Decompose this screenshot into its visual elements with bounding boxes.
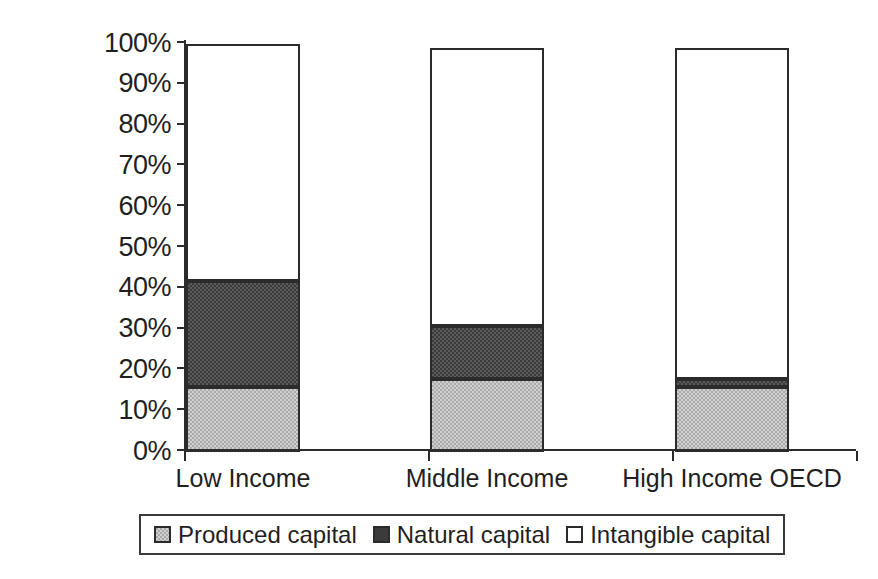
bar-middle-income[interactable] [430,42,544,450]
x-axis-tick-mark [856,451,858,461]
y-axis-tick-label: 70% [118,152,177,179]
bar-segment-produced[interactable] [675,387,789,452]
x-axis-tick-mark [428,451,430,461]
y-axis-tick-label: 60% [118,193,177,220]
y-axis-tick-mark [177,82,186,84]
y-axis-tick-label: 40% [118,274,177,301]
y-axis-tick-label: 90% [118,70,177,97]
bar-high-income-oecd[interactable] [675,42,789,450]
y-axis-tick-mark [177,367,186,369]
legend-swatch-intangible-icon [566,526,583,543]
chart-legend: Produced capitalNatural capitalIntangibl… [139,514,785,555]
legend-label: Intangible capital [590,523,770,547]
legend-swatch-produced-icon [154,526,171,543]
y-axis-tick-mark [177,408,186,410]
y-axis-tick-mark [177,286,186,288]
bar-segment-intangible[interactable] [186,44,300,281]
y-axis-tick-label: 0% [133,438,177,465]
x-axis-label-middle-income: Middle Income [406,466,569,491]
stacked-bar-chart: 100%90%80%70%60%50%40%30%20%10%0% Low In… [0,0,878,579]
x-axis-label-group: Low IncomeMiddle IncomeHigh Income OECD [0,466,878,502]
y-axis-tick-label: 50% [118,234,177,261]
x-axis-tick-mark [184,451,186,461]
y-axis-tick-mark [177,204,186,206]
y-axis-tick-label: 10% [118,397,177,424]
bar-segment-natural[interactable] [430,326,544,379]
bar-segment-intangible[interactable] [430,48,544,325]
legend-item-intangible[interactable]: Intangible capital [566,523,770,547]
bar-segment-produced[interactable] [186,387,300,452]
legend-label: Produced capital [178,523,357,547]
legend-label: Natural capital [397,523,550,547]
y-axis-tick-label: 30% [118,315,177,342]
bar-segment-intangible[interactable] [675,48,789,378]
plot-area [186,42,846,450]
legend-swatch-natural-icon [373,526,390,543]
y-axis-tick-label: 80% [118,111,177,138]
bar-low-income[interactable] [186,42,300,450]
legend-item-natural[interactable]: Natural capital [373,523,550,547]
x-axis-line [184,449,856,451]
y-axis-tick-mark [177,163,186,165]
x-axis-label-low-income: Low Income [176,466,311,491]
x-axis-tick-mark [672,451,674,461]
bar-segment-produced[interactable] [430,379,544,452]
y-axis-tick-mark [177,245,186,247]
x-axis-label-high-income-oecd: High Income OECD [622,466,842,491]
legend-item-produced[interactable]: Produced capital [154,523,357,547]
y-axis-tick-label: 100% [104,30,177,57]
y-axis-tick-mark [177,123,186,125]
y-axis-tick-mark [177,41,186,43]
y-axis-tick-mark [177,327,186,329]
y-axis-tick-label: 20% [118,356,177,383]
bar-segment-natural[interactable] [675,379,789,387]
bar-segment-natural[interactable] [186,281,300,387]
